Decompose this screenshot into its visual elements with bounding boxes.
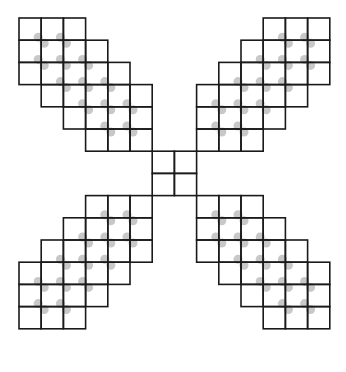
grid-cell	[197, 240, 219, 262]
grid-cell	[41, 85, 63, 107]
grid-cell	[130, 85, 152, 107]
x-polyomino-diagram	[0, 0, 346, 372]
grid-cell	[174, 151, 196, 173]
grid-cell	[263, 307, 285, 329]
grid-cell	[19, 62, 41, 84]
grid-cell	[285, 240, 307, 262]
grid-cell	[19, 307, 41, 329]
grid-cell	[152, 151, 174, 173]
grid-cell	[174, 173, 196, 195]
grid-cell	[63, 107, 85, 129]
grid-cell	[130, 196, 152, 218]
grid-cell	[219, 262, 241, 284]
grid-cell	[263, 218, 285, 240]
grid-cell	[241, 196, 263, 218]
grid-cell	[63, 18, 85, 40]
grid-cell	[241, 284, 263, 306]
grid-cell	[152, 173, 174, 195]
grid-cell	[86, 129, 108, 151]
grid-cell	[308, 262, 330, 284]
grid-cell	[108, 62, 130, 84]
grid-cell	[86, 40, 108, 62]
grid-cell	[197, 129, 219, 151]
grid-cell	[308, 18, 330, 40]
